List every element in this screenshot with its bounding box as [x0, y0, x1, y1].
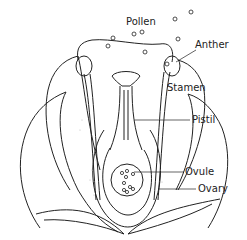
label-anther: Anther [195, 40, 229, 50]
ovules [120, 169, 134, 193]
stigma [112, 72, 140, 87]
bottom-sepal-right [128, 199, 220, 234]
label-pistil: Pistil [192, 115, 215, 125]
ovule-chamber [111, 164, 143, 196]
label-stamen: Stamen [167, 83, 206, 93]
left-anther [76, 56, 92, 76]
ovary-wall-inner [103, 148, 152, 215]
style-right [132, 86, 142, 150]
label-pollen: Pollen [126, 17, 156, 27]
style-left [110, 86, 120, 150]
bottom-sepal-left [36, 210, 124, 234]
receptacle-rim [78, 40, 173, 62]
label-ovary: Ovary [198, 184, 228, 194]
left-stamen-filament [84, 74, 96, 200]
flower-diagram: Pollen Anther Stamen Pistil Ovule Ovary [0, 0, 247, 240]
label-ovule: Ovule [185, 167, 214, 177]
anther-leader [176, 50, 196, 62]
